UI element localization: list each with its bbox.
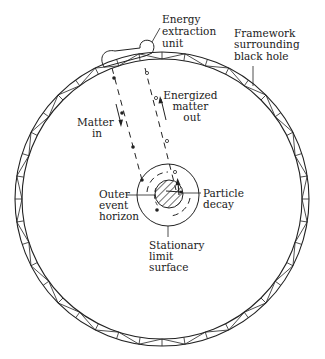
label-particle-decay: Particle decay <box>203 187 247 210</box>
label-matter-in: Matter in <box>77 116 117 139</box>
label-energy-extraction-unit: Energy extraction unit <box>162 13 220 49</box>
label-stationary-limit-surface: Stationary limit surface <box>149 239 208 273</box>
black-hole-energy-diagram: Energy extraction unit Framework surroun… <box>0 0 325 359</box>
label-framework: Framework surrounding black hole <box>234 27 303 62</box>
energized-matter-out-path <box>145 68 177 190</box>
label-outer-event-horizon: Outer event horizon <box>99 188 139 222</box>
label-energized-matter-out: Energized matter out <box>163 89 221 123</box>
